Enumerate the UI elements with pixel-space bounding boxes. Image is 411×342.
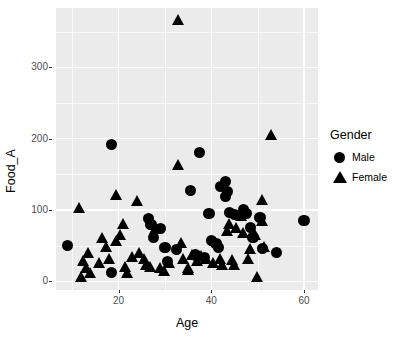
data-point-female <box>256 194 268 205</box>
legend-item-male[interactable]: Male <box>330 147 411 167</box>
legend-title: Gender <box>330 128 411 142</box>
data-point-female <box>73 202 85 213</box>
data-point-female <box>258 241 270 252</box>
data-point-male <box>271 247 282 258</box>
gridline-minor-horizontal <box>56 103 318 104</box>
data-point-female <box>249 229 261 240</box>
data-point-male <box>185 185 196 196</box>
gridline-major-vertical <box>118 8 119 290</box>
gridline-major-horizontal <box>56 281 318 282</box>
data-point-female <box>242 253 254 264</box>
data-point-female <box>251 271 263 282</box>
legend-label-female: Female <box>352 171 387 183</box>
data-point-male <box>203 208 214 219</box>
x-tick-label: 40 <box>196 296 226 306</box>
data-point-female <box>223 218 235 229</box>
gridline-major-horizontal <box>56 209 318 210</box>
data-point-female <box>131 195 143 206</box>
data-point-male <box>106 267 117 278</box>
data-point-female <box>158 265 170 276</box>
data-point-male <box>106 139 117 150</box>
data-point-female <box>244 243 256 254</box>
gridline-minor-horizontal <box>56 174 318 175</box>
data-point-female <box>256 215 268 226</box>
data-point-female <box>149 223 161 234</box>
data-point-female <box>172 159 184 170</box>
data-point-male <box>159 242 170 253</box>
data-point-male <box>194 147 205 158</box>
data-point-female <box>265 129 277 140</box>
data-point-male <box>298 215 309 226</box>
gridline-minor-horizontal <box>56 246 318 247</box>
gridline-minor-horizontal <box>56 32 318 33</box>
x-tick-mark <box>119 290 120 293</box>
data-point-female <box>175 237 187 248</box>
gridline-major-horizontal <box>56 67 318 68</box>
x-tick-mark <box>304 290 305 293</box>
data-point-female <box>110 189 122 200</box>
data-point-female <box>84 267 96 278</box>
x-axis-title: Age <box>56 316 318 330</box>
data-point-female <box>216 259 228 270</box>
data-point-female <box>121 267 133 278</box>
data-point-female <box>117 218 129 229</box>
data-point-male <box>220 191 231 202</box>
x-tick-mark <box>211 290 212 293</box>
plot-panel <box>56 8 318 290</box>
data-point-female <box>228 259 240 270</box>
x-tick-label: 20 <box>104 296 134 306</box>
data-point-female <box>93 257 105 268</box>
data-point-female <box>237 227 249 238</box>
data-point-female <box>114 229 126 240</box>
x-tick-label: 60 <box>289 296 319 306</box>
legend-item-female[interactable]: Female <box>330 167 411 187</box>
gridline-major-horizontal <box>56 138 318 139</box>
scatter-plot-figure: Food_A 0100200300 204060 Age Gender Male… <box>0 0 411 342</box>
data-point-female <box>172 14 184 25</box>
data-point-female <box>235 210 247 221</box>
data-point-female <box>182 264 194 275</box>
gridline-major-vertical <box>303 8 304 290</box>
data-point-male <box>213 242 224 253</box>
circle-marker-icon <box>330 147 350 167</box>
legend-label-male: Male <box>352 151 375 163</box>
legend: Gender Male Female <box>330 128 411 187</box>
triangle-marker-icon <box>330 167 350 187</box>
